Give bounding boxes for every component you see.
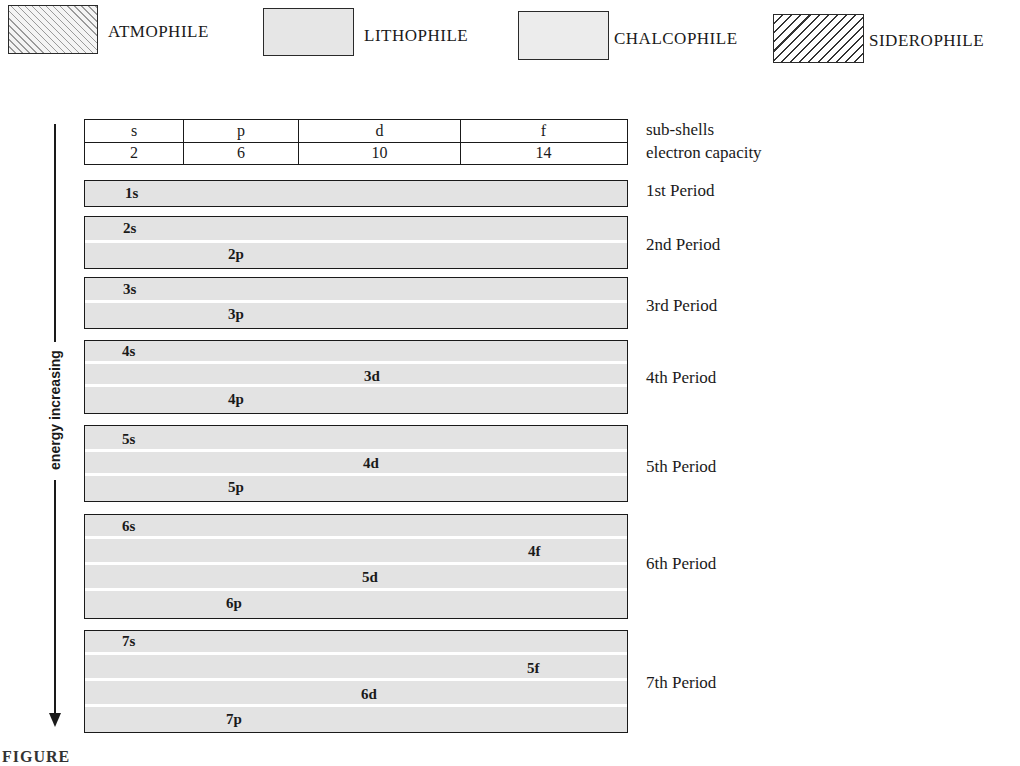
figure-caption: FIGURE bbox=[2, 748, 70, 766]
electron-capacity-label: electron capacity bbox=[646, 143, 762, 163]
subshell-s: s bbox=[85, 120, 183, 142]
orbital-5d: 5d bbox=[362, 569, 378, 586]
orbital-5s: 5s bbox=[122, 431, 135, 448]
row-divider bbox=[85, 240, 627, 243]
capacity-f: 14 bbox=[460, 142, 626, 164]
row-divider bbox=[85, 678, 627, 681]
period-4-block: 4s 3d 4p bbox=[84, 340, 628, 414]
row-divider bbox=[85, 449, 627, 452]
period-3-block: 3s 3p bbox=[84, 277, 628, 329]
lithophile-swatch bbox=[263, 8, 354, 56]
period-4-label: 4th Period bbox=[646, 368, 716, 388]
row-divider bbox=[85, 562, 627, 565]
legend-label-atmophile: ATMOPHILE bbox=[108, 22, 209, 42]
capacity-p: 6 bbox=[183, 142, 298, 164]
orbital-6s: 6s bbox=[122, 518, 135, 535]
legend-label-lithophile: LITHOPHILE bbox=[364, 26, 468, 46]
period-1-label: 1st Period bbox=[646, 181, 714, 201]
axis-line-top bbox=[54, 124, 56, 342]
period-1-block: 1s bbox=[84, 180, 628, 207]
period-7-label: 7th Period bbox=[646, 673, 716, 693]
period-5-block: 5s 4d 5p bbox=[84, 425, 628, 502]
capacity-d: 10 bbox=[298, 142, 460, 164]
siderophile-swatch bbox=[773, 14, 864, 63]
atmophile-swatch bbox=[8, 5, 98, 54]
subshell-d: d bbox=[298, 120, 460, 142]
orbital-7s: 7s bbox=[122, 633, 135, 650]
period-5-label: 5th Period bbox=[646, 457, 716, 477]
orbital-1s: 1s bbox=[125, 185, 138, 202]
axis-label: energy increasing bbox=[47, 350, 63, 470]
orbital-5p: 5p bbox=[228, 479, 244, 496]
period-3-label: 3rd Period bbox=[646, 296, 717, 316]
orbital-3d: 3d bbox=[364, 368, 380, 385]
orbital-7p: 7p bbox=[226, 711, 242, 728]
orbital-4s: 4s bbox=[122, 343, 135, 360]
chalcophile-swatch bbox=[518, 11, 609, 60]
subshell-header-table: s p d f 2 6 10 14 bbox=[84, 119, 628, 165]
period-2-label: 2nd Period bbox=[646, 235, 720, 255]
row-divider bbox=[85, 588, 627, 591]
row-divider bbox=[85, 473, 627, 476]
subshell-p: p bbox=[183, 120, 298, 142]
row-divider bbox=[85, 704, 627, 707]
row-divider bbox=[85, 652, 627, 655]
row-divider bbox=[85, 300, 627, 303]
orbital-6d: 6d bbox=[361, 686, 377, 703]
legend-label-siderophile: SIDEROPHILE bbox=[869, 31, 984, 51]
row-divider bbox=[85, 361, 627, 364]
period-6-label: 6th Period bbox=[646, 554, 716, 574]
orbital-4d: 4d bbox=[363, 455, 379, 472]
capacity-row: 2 6 10 14 bbox=[85, 142, 627, 164]
period-6-block: 6s 4f 5d 6p bbox=[84, 514, 628, 619]
capacity-s: 2 bbox=[85, 142, 183, 164]
row-divider bbox=[85, 384, 627, 387]
subshells-label: sub-shells bbox=[646, 120, 714, 140]
orbital-4f: 4f bbox=[528, 543, 541, 560]
period-7-block: 7s 5f 6d 7p bbox=[84, 630, 628, 733]
orbital-3s: 3s bbox=[123, 281, 136, 298]
subshell-f: f bbox=[460, 120, 626, 142]
orbital-2p: 2p bbox=[228, 246, 244, 263]
orbital-2s: 2s bbox=[123, 220, 136, 237]
orbital-3p: 3p bbox=[228, 306, 244, 323]
subshell-row: s p d f bbox=[85, 120, 627, 143]
legend-label-chalcophile: CHALCOPHILE bbox=[614, 29, 738, 49]
orbital-4p: 4p bbox=[228, 391, 244, 408]
orbital-6p: 6p bbox=[226, 595, 242, 612]
arrow-down-icon bbox=[49, 713, 61, 727]
period-2-block: 2s 2p bbox=[84, 216, 628, 269]
row-divider bbox=[85, 536, 627, 539]
orbital-5f: 5f bbox=[527, 660, 540, 677]
axis-line-bottom bbox=[54, 480, 56, 716]
